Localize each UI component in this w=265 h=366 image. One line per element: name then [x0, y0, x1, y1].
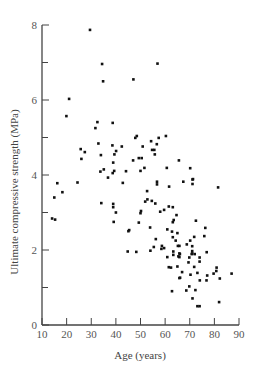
data-point: [96, 121, 99, 124]
data-point: [181, 271, 184, 274]
data-point: [135, 251, 138, 254]
data-point: [132, 159, 135, 162]
data-point: [56, 182, 59, 185]
data-point: [178, 245, 181, 248]
data-point: [172, 206, 175, 209]
data-point: [125, 170, 128, 173]
data-point: [156, 62, 159, 65]
data-point: [166, 228, 169, 231]
data-point: [215, 270, 218, 273]
data-point: [144, 200, 147, 203]
data-points: [51, 29, 233, 308]
data-point: [138, 221, 141, 224]
data-point: [115, 150, 118, 153]
data-point: [111, 144, 114, 147]
data-point: [54, 218, 57, 221]
data-point: [176, 265, 179, 268]
data-point: [191, 178, 194, 181]
data-point: [172, 221, 175, 224]
data-point: [121, 145, 124, 148]
data-point: [163, 209, 166, 212]
x-axis-ticks: 102030405060708090: [37, 318, 246, 340]
data-point: [156, 183, 159, 186]
data-point: [171, 290, 174, 293]
data-point: [100, 154, 103, 157]
data-point: [146, 190, 149, 193]
data-point: [102, 80, 105, 83]
x-tick-label: 10: [37, 328, 49, 340]
data-point: [154, 153, 157, 156]
x-tick-label: 70: [184, 328, 196, 340]
data-point: [94, 127, 97, 130]
data-point: [112, 206, 115, 209]
data-point: [68, 98, 71, 101]
data-point: [134, 137, 137, 140]
data-point: [103, 168, 106, 171]
data-point: [218, 301, 221, 304]
data-point: [97, 142, 100, 145]
y-tick-label: 4: [32, 169, 38, 181]
data-point: [168, 185, 171, 188]
data-point: [189, 167, 192, 170]
data-point: [193, 236, 196, 239]
data-point: [165, 135, 168, 138]
data-point: [80, 158, 83, 161]
y-axis-title: Ultimate compressive strength (MPa): [8, 109, 21, 275]
data-point: [107, 176, 110, 179]
data-point: [206, 274, 209, 277]
data-point: [189, 239, 192, 242]
data-point: [99, 170, 102, 173]
data-point: [149, 249, 152, 252]
data-point: [205, 251, 208, 254]
data-point: [212, 272, 215, 275]
data-point: [198, 256, 201, 259]
x-tick-label: 60: [160, 328, 172, 340]
data-point: [156, 180, 159, 183]
data-point: [217, 186, 220, 189]
data-point: [172, 254, 175, 257]
data-point: [178, 252, 181, 255]
data-point: [219, 277, 222, 280]
data-point: [141, 145, 144, 148]
data-point: [193, 266, 196, 269]
y-tick-label: 0: [32, 319, 38, 331]
data-point: [205, 279, 208, 282]
data-point: [159, 210, 162, 213]
data-point: [155, 238, 158, 241]
y-tick-label: 8: [32, 19, 38, 31]
data-point: [126, 250, 129, 253]
x-axis-title: Age (years): [114, 349, 166, 362]
data-point: [101, 63, 104, 66]
data-point: [188, 285, 191, 288]
data-point: [186, 243, 189, 246]
data-point: [160, 248, 163, 251]
data-point: [198, 305, 201, 308]
y-tick-label: 2: [32, 244, 38, 256]
data-point: [113, 153, 116, 156]
data-point: [112, 221, 115, 224]
data-point: [84, 151, 87, 154]
data-point: [199, 279, 202, 282]
data-point: [138, 157, 141, 160]
data-point: [127, 230, 130, 233]
data-point: [112, 203, 115, 206]
data-point: [143, 167, 146, 170]
data-point: [196, 272, 199, 275]
data-point: [151, 200, 154, 203]
data-point: [191, 245, 194, 248]
data-point: [168, 205, 171, 208]
y-tick-label: 6: [32, 94, 38, 106]
scatter-chart: 102030405060708090 02468 Age (years) Ult…: [0, 0, 265, 366]
data-point: [112, 161, 115, 164]
data-point: [139, 212, 142, 215]
data-point: [175, 214, 178, 217]
data-point: [51, 217, 54, 220]
data-point: [111, 172, 114, 175]
data-point: [204, 227, 207, 230]
data-point: [191, 297, 194, 300]
data-point: [195, 219, 198, 222]
data-point: [153, 149, 156, 152]
x-tick-label: 30: [86, 328, 98, 340]
data-point: [189, 273, 192, 276]
data-point: [176, 232, 179, 235]
